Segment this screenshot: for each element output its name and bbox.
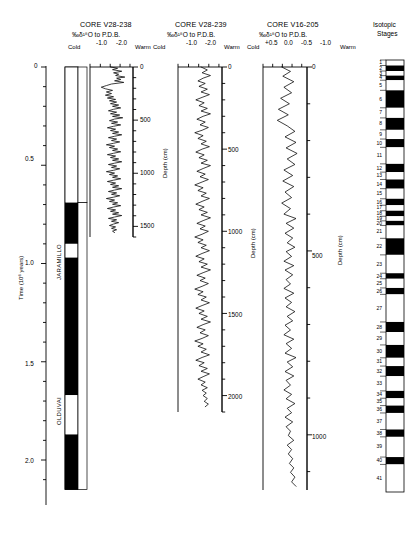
stage-number-7: 7 (362, 110, 382, 115)
stage-band-interglacial (386, 60, 404, 66)
stage-band-glacial (386, 211, 404, 217)
stage-band-glacial (386, 406, 404, 413)
isotope-curve (277, 67, 297, 486)
stage-number-28: 28 (362, 325, 382, 330)
isotopic-stages-group (380, 60, 404, 492)
stage-band-interglacial (386, 71, 404, 76)
stage-band-interglacial (386, 413, 404, 430)
stage-number-12: 12 (362, 166, 382, 171)
core-1-group (90, 64, 138, 237)
stage-number-23: 23 (362, 262, 382, 267)
polarity-band-normal (65, 395, 78, 434)
stage-band-glacial (386, 221, 404, 226)
stage-band-glacial (386, 76, 404, 81)
stage-number-9: 9 (362, 132, 382, 137)
stage-band-glacial (386, 66, 404, 72)
stage-number-11: 11 (362, 153, 382, 158)
stage-band-glacial (386, 118, 404, 130)
stage-band-interglacial (386, 80, 404, 90)
stage-band-interglacial (386, 216, 404, 221)
stage-band-glacial (386, 164, 404, 172)
stage-number-15: 15 (362, 191, 382, 196)
stage-number-34: 34 (362, 392, 382, 397)
stage-band-glacial (386, 199, 404, 205)
stage-number-21: 21 (362, 229, 382, 234)
stage-band-glacial (386, 288, 404, 294)
core-3-group (263, 64, 312, 490)
stage-number-30: 30 (362, 349, 382, 354)
stage-number-40: 40 (362, 458, 382, 463)
stage-band-glacial (386, 457, 404, 464)
stage-band-glacial (386, 345, 404, 358)
stage-band-glacial (386, 322, 404, 332)
stage-number-25: 25 (362, 281, 382, 286)
polarity-band-reversed (65, 434, 78, 489)
stage-band-interglacial (386, 189, 404, 199)
polarity-band-reversed (65, 258, 78, 396)
isotope-curve (195, 67, 211, 407)
epoch-bar-brunhes (78, 67, 87, 203)
stage-number-37: 37 (362, 419, 382, 424)
stage-band-interglacial (386, 398, 404, 405)
stage-number-22: 22 (362, 244, 382, 249)
stage-band-interglacial (386, 172, 404, 179)
isotope-curve (101, 67, 125, 233)
stage-number-38: 38 (362, 431, 382, 436)
stage-number-8: 8 (362, 121, 382, 126)
stage-band-interglacial (386, 147, 404, 164)
stage-band-glacial (386, 429, 404, 436)
stage-number-4: 4 (362, 75, 382, 80)
epoch-bar-matuyama (78, 203, 87, 490)
stage-band-interglacial (386, 130, 404, 139)
stage-number-32: 32 (362, 369, 382, 374)
stage-number-41: 41 (362, 476, 382, 481)
polarity-column-group (65, 67, 87, 489)
stage-number-13: 13 (362, 173, 382, 178)
stage-number-31: 31 (362, 359, 382, 364)
stage-number-33: 33 (362, 381, 382, 386)
stage-band-interglacial (386, 464, 404, 492)
stage-band-glacial (386, 366, 404, 376)
stage-number-24: 24 (362, 274, 382, 279)
stage-band-interglacial (386, 279, 404, 288)
stage-band-interglacial (386, 225, 404, 238)
stage-number-14: 14 (362, 182, 382, 187)
polarity-band-reversed (65, 203, 78, 244)
stage-number-29: 29 (362, 336, 382, 341)
stage-number-39: 39 (362, 444, 382, 449)
stage-number-36: 36 (362, 407, 382, 412)
stage-number-26: 26 (362, 289, 382, 294)
stage-band-interglacial (386, 437, 404, 457)
stage-number-35: 35 (362, 399, 382, 404)
stage-band-glacial (386, 238, 404, 255)
stage-band-glacial (386, 139, 404, 147)
stage-number-10: 10 (362, 141, 382, 146)
stage-number-20: 20 (362, 221, 382, 226)
stage-band-interglacial (386, 255, 404, 273)
stage-band-interglacial (386, 358, 404, 366)
polarity-band-normal (65, 67, 78, 203)
stage-number-6: 6 (362, 97, 382, 102)
stage-band-interglacial (386, 294, 404, 322)
stage-number-27: 27 (362, 306, 382, 311)
stage-band-glacial (386, 90, 404, 107)
stage-band-interglacial (386, 108, 404, 118)
stage-number-5: 5 (362, 83, 382, 88)
figure-graphics (0, 0, 416, 558)
stage-band-interglacial (386, 205, 404, 211)
stage-band-glacial (386, 273, 404, 279)
figure-root: CORE V28-238 ‰δ¹⁸O to P.D.B. CORE V28-23… (0, 0, 416, 558)
core-2-group (178, 64, 227, 412)
stage-band-interglacial (386, 332, 404, 345)
stage-band-interglacial (386, 376, 404, 391)
polarity-band-normal (65, 244, 78, 258)
stage-band-glacial (386, 179, 404, 188)
stage-band-glacial (386, 391, 404, 398)
time-axis-group (41, 66, 46, 505)
